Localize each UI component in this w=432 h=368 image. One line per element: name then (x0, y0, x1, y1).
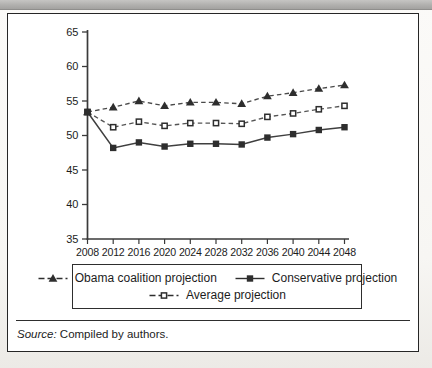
svg-text:2008: 2008 (76, 246, 99, 258)
svg-text:40: 40 (66, 198, 78, 210)
legend-item-obama: Obama coalition projection (37, 271, 217, 285)
obama-series-marker-icon (37, 273, 69, 284)
svg-text:2012: 2012 (102, 246, 125, 258)
svg-text:2048: 2048 (333, 246, 356, 258)
svg-text:2024: 2024 (179, 246, 202, 258)
legend-item-average: Average projection (148, 288, 286, 302)
svg-text:65: 65 (66, 26, 78, 38)
legend-label-conservative: Conservative projection (272, 271, 397, 285)
svg-text:2020: 2020 (153, 246, 176, 258)
legend-label-obama: Obama coalition projection (75, 271, 217, 285)
legend-row-1: Obama coalition projection Conservative … (73, 271, 361, 285)
legend-row-2: Average projection (73, 288, 361, 302)
svg-text:50: 50 (66, 129, 78, 141)
source-text: Compiled by authors. (60, 328, 169, 340)
scanned-page: { "page": { "background": "#f7f6f3" }, "… (0, 0, 432, 368)
source-label: Source: (17, 328, 57, 340)
svg-text:2040: 2040 (282, 246, 305, 258)
chart-legend: Obama coalition projection Conservative … (72, 264, 362, 309)
svg-text:2028: 2028 (205, 246, 228, 258)
legend-item-conservative: Conservative projection (234, 271, 397, 285)
svg-text:2016: 2016 (128, 246, 151, 258)
figure-box: 3540455055606520082012201620202024202820… (7, 13, 419, 352)
source-note: Source: Compiled by authors. (17, 328, 169, 340)
legend-label-average: Average projection (186, 288, 286, 302)
svg-text:55: 55 (66, 95, 78, 107)
svg-text:2036: 2036 (256, 246, 279, 258)
source-divider-rule (16, 320, 410, 321)
svg-text:60: 60 (66, 60, 78, 72)
svg-text:45: 45 (66, 164, 78, 176)
svg-text:35: 35 (66, 233, 78, 245)
page-header-bar (0, 0, 432, 10)
svg-text:2032: 2032 (230, 246, 253, 258)
svg-text:2044: 2044 (307, 246, 330, 258)
average-series-marker-icon (148, 290, 180, 301)
conservative-series-marker-icon (234, 273, 266, 284)
projection-line-chart: 3540455055606520082012201620202024202820… (8, 18, 418, 264)
